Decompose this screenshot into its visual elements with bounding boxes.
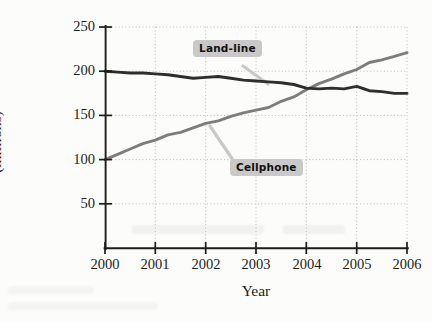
axis-lines bbox=[105, 26, 408, 249]
x-tick-label-2002: 2002 bbox=[179, 256, 233, 273]
x-tick-label-2005: 2005 bbox=[330, 256, 384, 273]
leader-line-cellphone bbox=[210, 126, 233, 160]
x-tick-label-2000: 2000 bbox=[78, 256, 132, 273]
chart-figure: 250 200 150 100 50 2000 2001 2002 2003 2… bbox=[0, 0, 432, 322]
y-tick-label-150: 150 bbox=[50, 106, 95, 123]
y-axis-title: Number of Customers (millions) bbox=[0, 42, 5, 242]
grid-vertical bbox=[155, 27, 407, 248]
x-axis-title: Year bbox=[105, 282, 407, 300]
y-tick-label-200: 200 bbox=[50, 62, 95, 79]
x-tick-label-2004: 2004 bbox=[280, 256, 334, 273]
y-tick-label-250: 250 bbox=[50, 18, 95, 35]
series-label-cellphone: Cellphone bbox=[230, 159, 303, 176]
x-tick-label-2003: 2003 bbox=[229, 256, 283, 273]
x-tick-label-2001: 2001 bbox=[128, 256, 182, 273]
y-tick-label-100: 100 bbox=[50, 151, 95, 168]
y-axis-title-line2: (millions) bbox=[0, 42, 5, 242]
y-tick-label-50: 50 bbox=[50, 195, 95, 212]
series-label-landline: Land-line bbox=[193, 40, 262, 57]
x-tick-label-2006: 2006 bbox=[380, 256, 432, 273]
